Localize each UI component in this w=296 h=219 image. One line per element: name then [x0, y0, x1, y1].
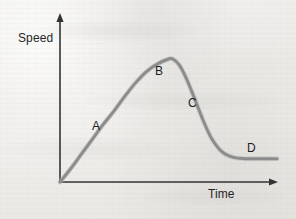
- curve-label-b: B: [155, 65, 163, 77]
- y-axis-label: Speed: [18, 32, 53, 44]
- y-axis-arrow-icon: [56, 13, 63, 22]
- x-axis-label: Time: [208, 188, 235, 200]
- curve-label-c: C: [188, 97, 197, 109]
- x-axis-arrow-icon: [269, 178, 278, 185]
- speed-time-graph-figure: Speed Time A B C D: [0, 0, 296, 219]
- curve-label-d: D: [247, 142, 256, 154]
- curve-label-a: A: [92, 120, 100, 132]
